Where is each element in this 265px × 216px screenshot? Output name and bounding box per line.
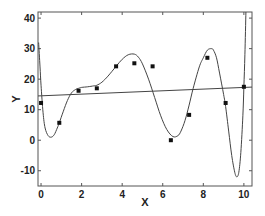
plot-frame bbox=[38, 12, 252, 186]
x-tick-label: 4 bbox=[119, 189, 125, 200]
data-point-marker bbox=[132, 61, 136, 65]
series-layer bbox=[38, 12, 252, 177]
data-point-marker bbox=[57, 121, 61, 125]
y-tick-label: 20 bbox=[24, 74, 36, 85]
data-point-marker bbox=[242, 85, 246, 89]
data-point-marker bbox=[187, 113, 191, 117]
x-tick-label: 0 bbox=[38, 189, 44, 200]
y-tick-label: 40 bbox=[24, 13, 36, 24]
data-point-marker bbox=[169, 138, 173, 142]
data-point-marker bbox=[224, 101, 228, 105]
chart: 0246810 -10010203040 X Y bbox=[0, 0, 265, 216]
plot-area bbox=[38, 12, 252, 186]
data-point-marker bbox=[205, 56, 209, 60]
data-point-marker bbox=[114, 64, 118, 68]
data-point-marker bbox=[95, 86, 99, 90]
data-point-marker bbox=[151, 64, 155, 68]
x-axis-label: X bbox=[141, 196, 149, 208]
y-tick-label: -10 bbox=[21, 165, 36, 176]
x-tick-label: 6 bbox=[160, 189, 166, 200]
y-tick-label: 10 bbox=[24, 104, 36, 115]
x-tick-label: 8 bbox=[201, 189, 207, 200]
x-axis-ticks: 0246810 bbox=[38, 12, 250, 200]
y-axis-label: Y bbox=[10, 95, 22, 103]
data-point-marker bbox=[39, 101, 43, 105]
x-tick-label: 2 bbox=[79, 189, 85, 200]
y-tick-label: 30 bbox=[24, 43, 36, 54]
y-tick-label: 0 bbox=[29, 135, 35, 146]
x-tick-label: 10 bbox=[238, 189, 250, 200]
data-point-marker bbox=[77, 89, 81, 93]
y-axis-ticks: -10010203040 bbox=[21, 13, 252, 177]
